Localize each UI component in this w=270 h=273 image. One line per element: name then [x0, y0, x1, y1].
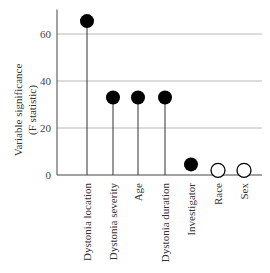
- y-axis-label: Variable significance(F statistic): [12, 64, 39, 157]
- y-tick-label: 40: [40, 75, 52, 87]
- x-tick-label: Investigator: [185, 183, 197, 236]
- x-tick-label: Dystonia duration: [159, 183, 171, 263]
- x-tick-label: Dystonia location: [81, 183, 93, 261]
- plot-area: 0204060Variable significance(F statistic…: [0, 0, 270, 273]
- x-tick-label: Sex: [238, 183, 250, 200]
- x-tick-label: Dystonia severity: [107, 183, 119, 261]
- filled-marker: [184, 157, 198, 171]
- filled-marker: [158, 90, 172, 104]
- y-axis-label-line: (F statistic): [26, 85, 39, 135]
- filled-marker: [106, 90, 120, 104]
- filled-marker: [80, 14, 94, 28]
- y-axis-label-line: Variable significance: [12, 64, 24, 157]
- y-tick-label: 20: [40, 122, 52, 134]
- filled-marker: [131, 90, 145, 104]
- x-tick-label: Age: [132, 183, 144, 201]
- open-marker: [237, 163, 251, 177]
- lollipop-chart: 0204060Variable significance(F statistic…: [0, 0, 270, 273]
- x-tick-label: Race: [212, 183, 224, 205]
- y-tick-label: 60: [40, 28, 52, 40]
- open-marker: [211, 163, 225, 177]
- y-tick-label: 0: [46, 169, 52, 181]
